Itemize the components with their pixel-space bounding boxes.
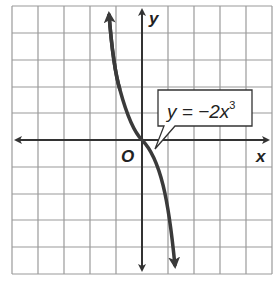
cubic-function-graph: y x O y = −2x3 [0, 0, 278, 286]
y-axis-label: y [148, 9, 160, 28]
equation-exponent: 3 [229, 99, 235, 111]
origin-label: O [121, 147, 134, 166]
svg-text:y = −2x3: y = −2x3 [165, 99, 235, 122]
x-axis-label: x [255, 147, 267, 166]
equation-text: y = −2x [165, 101, 231, 122]
